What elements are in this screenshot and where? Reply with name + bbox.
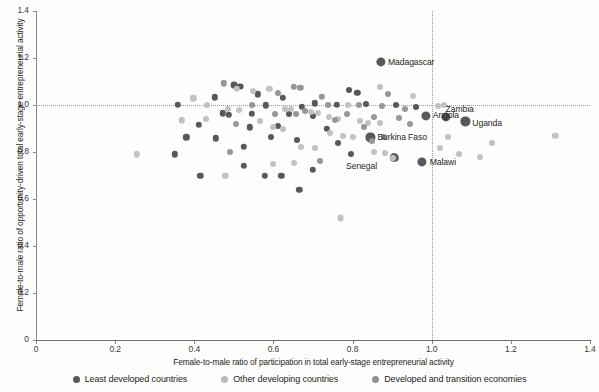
data-point xyxy=(410,93,416,99)
data-point xyxy=(270,161,276,167)
data-point xyxy=(278,172,284,178)
y-tick-label: 0 xyxy=(3,334,29,344)
legend-label: Developed and transition economies xyxy=(384,374,526,384)
data-point xyxy=(385,91,391,97)
data-point xyxy=(319,94,325,100)
chart-legend: Least developed countriesOther developin… xyxy=(0,374,599,384)
data-point xyxy=(435,103,441,109)
x-tick-label: 0.8 xyxy=(340,344,366,354)
data-point xyxy=(212,94,218,100)
data-point xyxy=(275,90,281,96)
data-point xyxy=(268,134,274,140)
data-point xyxy=(437,145,443,151)
data-point-angola xyxy=(421,111,430,120)
data-point xyxy=(302,108,308,114)
data-point xyxy=(361,124,367,130)
y-tick-mark xyxy=(33,246,36,247)
data-point xyxy=(236,107,242,113)
data-point xyxy=(203,116,209,122)
data-point xyxy=(134,151,140,157)
data-point xyxy=(348,151,354,157)
scatter-chart-figure: 00.20.40.60.81.01.21.4 00.20.40.60.81.01… xyxy=(0,0,599,392)
data-point xyxy=(337,214,344,221)
data-point xyxy=(477,154,483,160)
data-point xyxy=(270,124,276,130)
data-point xyxy=(204,102,210,108)
data-point xyxy=(248,111,254,117)
data-point xyxy=(350,134,356,140)
data-point xyxy=(407,121,413,127)
data-point xyxy=(345,102,351,108)
point-label-malawi: Malawi xyxy=(430,157,456,167)
legend-item-least-developed-countries[interactable]: Least developed countries xyxy=(73,374,188,384)
data-point xyxy=(190,95,196,101)
y-tick-mark xyxy=(33,58,36,59)
data-point xyxy=(233,121,239,127)
data-point xyxy=(312,145,318,151)
y-axis-title: Female-to-male ratio of opportunity-driv… xyxy=(15,0,25,330)
data-point xyxy=(171,151,177,157)
data-point xyxy=(174,102,180,108)
data-point-madagascar xyxy=(376,58,385,67)
data-point xyxy=(197,172,203,178)
data-point xyxy=(489,140,495,146)
data-point xyxy=(456,151,462,157)
legend-marker-icon xyxy=(221,376,228,383)
point-label-madagascar: Madagascar xyxy=(388,57,434,67)
data-point xyxy=(183,134,189,140)
data-point xyxy=(393,102,399,108)
data-point xyxy=(552,132,558,138)
data-point xyxy=(382,150,388,156)
point-label-zambia: Zambia xyxy=(446,104,474,114)
data-point xyxy=(178,117,184,123)
data-point xyxy=(335,140,341,146)
data-point xyxy=(346,87,352,93)
data-point xyxy=(298,144,304,150)
data-point xyxy=(226,112,232,118)
data-point xyxy=(390,155,396,161)
data-point xyxy=(222,172,228,178)
x-tick-label: 0.4 xyxy=(181,344,207,354)
data-point xyxy=(241,144,247,150)
data-point xyxy=(294,137,300,143)
x-tick-label: 1.0 xyxy=(419,344,445,354)
data-point xyxy=(308,109,314,115)
data-point xyxy=(315,110,321,116)
y-tick-mark xyxy=(33,152,36,153)
data-point xyxy=(227,149,233,155)
data-point xyxy=(325,102,331,108)
data-point xyxy=(363,101,369,107)
x-tick-label: 0 xyxy=(23,344,49,354)
data-point xyxy=(250,88,256,94)
point-label-senegal: Senegal xyxy=(346,161,377,171)
data-point xyxy=(402,106,408,112)
x-axis-line xyxy=(36,340,591,341)
data-point xyxy=(221,80,227,86)
data-point xyxy=(266,85,272,91)
x-tick-label: 0.2 xyxy=(102,344,128,354)
data-point xyxy=(297,85,303,91)
data-point xyxy=(317,158,323,164)
data-point xyxy=(280,126,286,132)
data-point xyxy=(344,111,350,117)
legend-marker-icon xyxy=(73,376,80,383)
data-point-malawi xyxy=(417,158,426,167)
data-point xyxy=(293,111,299,117)
data-point xyxy=(279,95,285,101)
legend-item-other-developing-countries[interactable]: Other developing countries xyxy=(221,374,338,384)
x-tick-label: 0.6 xyxy=(260,344,286,354)
data-point xyxy=(377,84,383,90)
legend-marker-icon xyxy=(372,376,379,383)
x-axis-title: Female-to-male ratio of participation in… xyxy=(36,357,591,367)
data-point xyxy=(262,102,268,108)
data-point xyxy=(354,90,360,96)
data-point xyxy=(334,101,340,107)
y-axis-line xyxy=(36,11,37,341)
y-tick-mark xyxy=(33,293,36,294)
data-point xyxy=(246,124,252,130)
data-point xyxy=(369,138,375,144)
legend-item-developed-and-transition-economies[interactable]: Developed and transition economies xyxy=(372,374,526,384)
data-point xyxy=(356,102,362,108)
data-point xyxy=(249,102,255,108)
data-point xyxy=(445,134,451,140)
